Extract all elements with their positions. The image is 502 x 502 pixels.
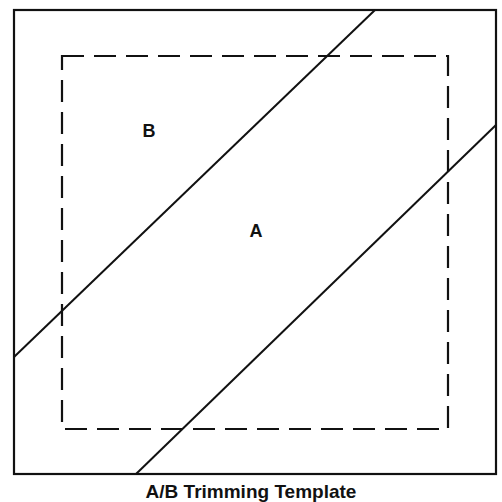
outer-square [14, 10, 496, 474]
upper-diagonal-line [14, 10, 375, 357]
diagram-title: A/B Trimming Template [0, 482, 502, 501]
region-label-a: A [250, 222, 263, 240]
region-label-b: B [143, 122, 156, 140]
lower-diagonal-line [136, 125, 496, 474]
inner-dashed-square [62, 56, 448, 429]
